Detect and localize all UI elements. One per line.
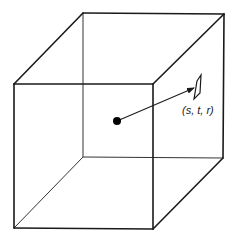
front-bottom-edge bbox=[14, 228, 153, 229]
bottom-right-depth-edge bbox=[153, 158, 223, 229]
cube-map-diagram: (s, t, r) bbox=[0, 0, 234, 240]
back-top-edge bbox=[83, 13, 224, 14]
top-right-depth-edge bbox=[153, 14, 224, 84]
center-point bbox=[113, 117, 121, 125]
bottom-left-depth-edge bbox=[14, 157, 83, 228]
texel-quad bbox=[194, 75, 201, 99]
back-right-edge bbox=[223, 14, 224, 158]
coordinate-label: (s, t, r) bbox=[182, 104, 214, 116]
top-left-depth-edge bbox=[14, 13, 83, 84]
